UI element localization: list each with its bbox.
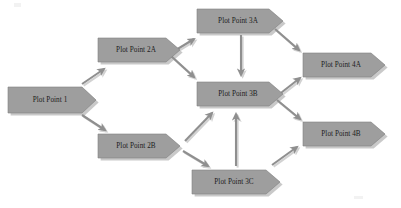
edge-pp2b-to-pp3b — [185, 113, 212, 141]
edge-pp3c-to-pp4b — [272, 147, 297, 165]
node-plot-point-2b[interactable]: Plot Point 2B — [98, 134, 180, 158]
node-label-plot-point-3a: Plot Point 3A — [218, 17, 259, 25]
edge-pp3a-to-pp4a — [275, 29, 299, 50]
node-label-plot-point-2a: Plot Point 2A — [116, 46, 157, 54]
node-label-plot-point-1: Plot Point 1 — [33, 96, 68, 104]
edge-pp3b-to-pp4b — [277, 100, 300, 119]
flowchart-diagram: Plot Point 1 Plot Point 2A Plot Point 2B… — [0, 0, 401, 208]
node-layer: Plot Point 1 Plot Point 2A Plot Point 2B… — [8, 9, 385, 194]
edge-pp1-to-pp2b — [82, 115, 105, 130]
node-label-plot-point-3b: Plot Point 3B — [218, 90, 258, 98]
node-label-plot-point-2b: Plot Point 2B — [116, 142, 156, 150]
edge-pp2b-to-pp3c — [183, 151, 208, 166]
edge-pp1-to-pp2a — [82, 69, 104, 84]
node-plot-point-4a[interactable]: Plot Point 4A — [303, 53, 385, 77]
node-plot-point-4b[interactable]: Plot Point 4B — [303, 122, 385, 146]
node-label-plot-point-4a: Plot Point 4A — [321, 61, 362, 69]
node-plot-point-3c[interactable]: Plot Point 3C — [192, 170, 280, 194]
diagram-canvas: Plot Point 1 Plot Point 2A Plot Point 2B… — [0, 0, 401, 208]
node-plot-point-1[interactable]: Plot Point 1 — [8, 87, 96, 113]
node-label-plot-point-3c: Plot Point 3C — [214, 178, 254, 186]
node-plot-point-3b[interactable]: Plot Point 3B — [197, 82, 283, 106]
node-label-plot-point-4b: Plot Point 4B — [321, 130, 361, 138]
node-plot-point-2a[interactable]: Plot Point 2A — [98, 38, 180, 62]
node-plot-point-3a[interactable]: Plot Point 3A — [197, 9, 283, 33]
edge-pp2a-to-pp3b — [171, 56, 194, 77]
